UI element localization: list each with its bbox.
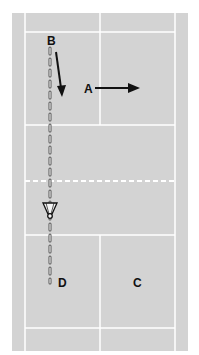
player-c-label: C <box>133 276 142 290</box>
player-a-label: A <box>84 82 93 96</box>
player-b-label: B <box>47 34 56 48</box>
player-d-label: D <box>58 276 67 290</box>
court-diagram: B A D C <box>0 0 199 355</box>
